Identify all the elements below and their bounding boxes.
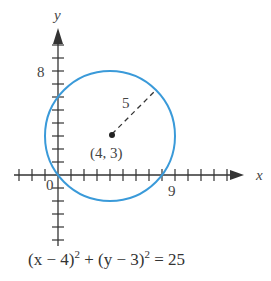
- radius-label: 5: [122, 95, 130, 111]
- equation-part-1: (x − 4): [28, 250, 74, 269]
- y-tick-label-8: 8: [37, 64, 45, 80]
- x-tick-label-9: 9: [168, 183, 176, 199]
- radius-dashed-line: [112, 90, 156, 134]
- equation-rhs: = 25: [150, 250, 185, 269]
- equation-part-2: + (y − 3): [80, 250, 145, 269]
- circle-graph: x y 8 0 9 (4, 3) 5: [0, 0, 271, 281]
- x-axis-arrow-icon: [230, 170, 244, 180]
- circle-equation: (x − 4)2 + (y − 3)2 = 25: [28, 248, 185, 270]
- x-axis-label: x: [255, 167, 263, 183]
- y-axis-label: y: [52, 7, 61, 23]
- x-tick-label-0: 0: [46, 177, 54, 193]
- center-point: [109, 132, 115, 138]
- center-label: (4, 3): [90, 145, 123, 162]
- y-axis-arrow-icon: [53, 28, 63, 44]
